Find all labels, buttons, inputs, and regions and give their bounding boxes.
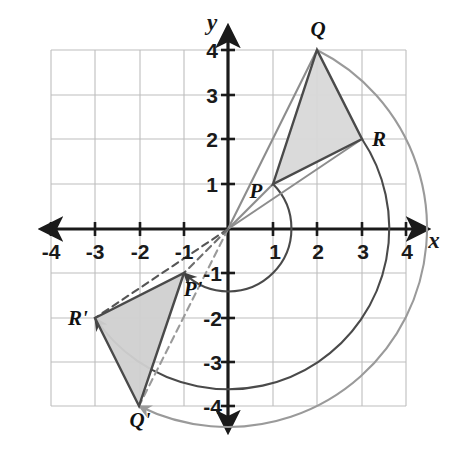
vertex-label-p: P [249, 179, 263, 203]
vertex-label-p-prime: P' [183, 277, 203, 301]
arc-q-to-q-prime [139, 50, 427, 427]
x-tick-label-4: 4 [401, 240, 413, 263]
y-axis-label: y [204, 10, 218, 35]
y-tick-label-1: 1 [206, 173, 218, 196]
x-tick-label--2: -2 [131, 240, 150, 263]
vertex-label-q-prime: Q' [130, 408, 151, 432]
coordinate-plane: -4 -3 -2 -1 1 2 3 4 4 3 2 1 -1 -2 -3 -4 … [0, 0, 469, 453]
y-tick-label-2: 2 [206, 128, 218, 151]
x-tick-label-2: 2 [312, 240, 324, 263]
arc-p-to-p-prime [184, 184, 291, 291]
x-tick-label--1: -1 [175, 240, 194, 263]
y-tick-label--4: -4 [203, 395, 222, 418]
vertex-label-q: Q [310, 17, 325, 41]
y-tick-label--1: -1 [203, 262, 222, 285]
x-tick-label--3: -3 [86, 240, 105, 263]
y-tick-label-3: 3 [206, 84, 218, 107]
x-tick-label--4: -4 [42, 240, 61, 263]
x-axis-label: x [427, 228, 440, 253]
y-tick-label--2: -2 [203, 307, 222, 330]
x-tick-label-1: 1 [269, 240, 281, 263]
y-tick-label--3: -3 [203, 351, 222, 374]
rotation-figure: -4 -3 -2 -1 1 2 3 4 4 3 2 1 -1 -2 -3 -4 … [0, 0, 469, 453]
y-tick-label-4: 4 [206, 39, 218, 62]
vertex-label-r: R [371, 127, 386, 151]
x-tick-label-3: 3 [357, 240, 369, 263]
vertex-label-r-prime: R' [67, 306, 88, 330]
